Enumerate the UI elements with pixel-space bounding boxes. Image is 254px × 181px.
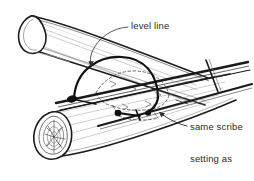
level-line-leader xyxy=(88,27,128,67)
label-same-scribe-line1: same scribe xyxy=(190,122,243,133)
label-level-line: level line xyxy=(131,21,169,32)
end-grain-rings xyxy=(34,112,72,159)
label-same-scribe-line2: setting as xyxy=(190,154,243,165)
illustration-figure: level line same scribe setting as notch xyxy=(0,0,254,181)
label-same-scribe: same scribe setting as notch xyxy=(190,101,243,181)
